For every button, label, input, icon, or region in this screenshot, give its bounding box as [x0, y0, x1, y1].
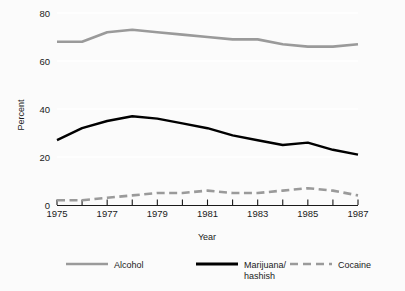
- legend-label: Cocaine: [338, 260, 371, 270]
- legend-label-line2: hashish: [244, 271, 275, 281]
- x-tick-label: 1977: [97, 208, 118, 219]
- x-tick-label: 1985: [297, 208, 318, 219]
- legend-label: Marijuana/: [244, 260, 287, 270]
- chart-background: [0, 0, 405, 291]
- y-tick-label: 80: [39, 8, 50, 19]
- x-tick-label: 1981: [197, 208, 218, 219]
- x-tick-label: 1979: [147, 208, 168, 219]
- x-tick-label: 1975: [46, 208, 67, 219]
- y-tick-label: 40: [39, 104, 50, 115]
- legend-label: Alcohol: [114, 260, 144, 270]
- chart-figure: 020406080 Percent 1975197719791981198319…: [0, 0, 405, 291]
- y-tick-label: 60: [39, 56, 50, 67]
- x-axis-title: Year: [198, 232, 216, 242]
- y-axis-title: Percent: [16, 99, 26, 131]
- x-tick-label: 1987: [347, 208, 368, 219]
- y-tick-label: 20: [39, 152, 50, 163]
- x-tick-label: 1983: [247, 208, 268, 219]
- line-chart: 020406080 Percent 1975197719791981198319…: [0, 0, 405, 291]
